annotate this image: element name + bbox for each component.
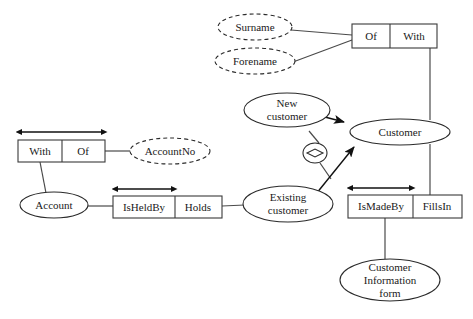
- diagram-svg: With Of Of With IsHeldBy Holds IsMadeBy …: [0, 0, 473, 319]
- role-label-of: Of: [365, 30, 377, 42]
- existing-customer-label-line1: Existing: [270, 191, 307, 203]
- value-type-accountno[interactable]: AccountNo: [130, 138, 210, 164]
- role-label-isheldby: IsHeldBy: [123, 201, 166, 213]
- accountno-label: AccountNo: [145, 145, 196, 157]
- fact-type-form-ismadeby-customer[interactable]: IsMadeBy FillsIn: [348, 188, 462, 218]
- entity-type-customer-information-form[interactable]: Customer Information form: [340, 259, 440, 301]
- er-diagram-canvas: With Of Of With IsHeldBy Holds IsMadeBy …: [0, 0, 473, 319]
- fact-type-customer-has-name[interactable]: Of With: [352, 24, 437, 48]
- value-type-forename[interactable]: Forename: [215, 48, 295, 74]
- forename-label: Forename: [233, 55, 277, 67]
- existing-customer-label-line2: customer: [268, 204, 309, 216]
- new-customer-label-line2: customer: [267, 110, 308, 122]
- role-label-ismadeby: IsMadeBy: [358, 200, 404, 212]
- entity-type-account[interactable]: Account: [20, 192, 88, 218]
- connector-constraint-to-new-link: [309, 131, 319, 143]
- exclusion-constraint-icon[interactable]: [303, 143, 327, 163]
- form-label-line2: Information: [364, 274, 417, 286]
- form-label-line1: Customer: [369, 261, 412, 273]
- role-label-holds: Holds: [185, 201, 211, 213]
- connector-accountno-fact-to-account: [40, 162, 46, 193]
- connector-heldby-fact-to-existing-customer: [222, 205, 245, 206]
- role-label-with: With: [29, 145, 51, 157]
- new-customer-label-line1: New: [277, 97, 298, 109]
- customer-label: Customer: [379, 126, 422, 138]
- connector-surname-to-name-fact: [291, 30, 352, 35]
- connector-forename-to-name-fact: [293, 40, 352, 62]
- form-label-line3: form: [379, 287, 401, 299]
- role-label-of: Of: [77, 145, 89, 157]
- entity-type-new-customer[interactable]: New customer: [244, 93, 330, 127]
- entity-type-customer[interactable]: Customer: [350, 119, 450, 145]
- fact-type-account-has-accountno[interactable]: With Of: [18, 132, 105, 162]
- surname-label: Surname: [235, 21, 274, 33]
- entity-type-existing-customer[interactable]: Existing customer: [243, 186, 333, 222]
- fact-type-account-isheldby-customer[interactable]: IsHeldBy Holds: [113, 189, 222, 218]
- role-label-fillsin: FillsIn: [423, 200, 452, 212]
- value-type-surname[interactable]: Surname: [218, 14, 292, 40]
- role-label-with: With: [403, 30, 425, 42]
- account-label: Account: [35, 199, 72, 211]
